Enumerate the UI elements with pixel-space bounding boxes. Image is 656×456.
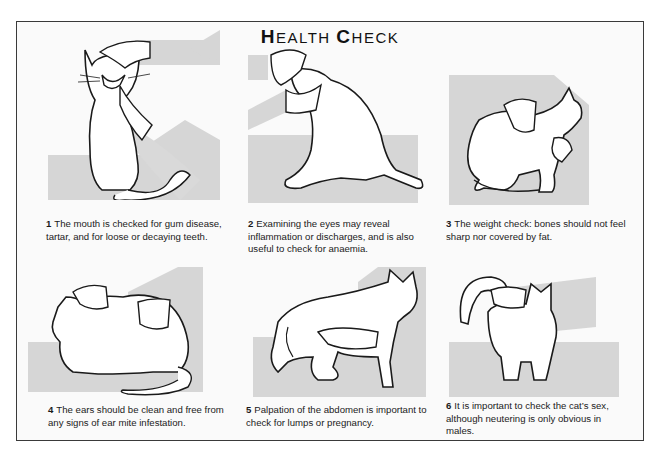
panel-6-caption: 6It is important to check the cat’s sex,… [446,400,621,438]
cat-weight-check-illustration [444,70,624,205]
panel-1-illustration [40,30,220,200]
cat-abdomen-check-illustration [248,262,448,397]
caption-text: The mouth is checked for gum disease, ta… [46,218,222,242]
panel-3-illustration [444,70,624,205]
panel-5-illustration [248,262,448,397]
panel-2-illustration [246,40,446,205]
panel-5-caption: 5Palpation of the abdomen is important t… [246,404,431,429]
panel-3-caption: 3The weight check: bones should not feel… [446,218,626,243]
panel-4-caption: 4The ears should be clean and free from … [48,404,228,429]
cat-mouth-check-illustration [40,30,220,200]
cat-sex-check-illustration [446,262,626,397]
panel-6-illustration [446,262,626,397]
cat-eye-check-illustration [246,40,446,205]
caption-text: Palpation of the abdomen is important to… [246,404,427,428]
caption-text: The weight check: bones should not feel … [446,218,626,242]
step-number: 2 [248,218,253,229]
caption-text: It is important to check the cat’s sex, … [446,400,609,436]
step-number: 6 [446,400,451,411]
step-number: 1 [46,218,51,229]
step-number: 5 [246,404,251,415]
cat-ear-check-illustration [28,262,228,397]
caption-text: Examining the eyes may reveal inflammati… [248,218,414,254]
panel-2-caption: 2Examining the eyes may reveal inflammat… [248,218,423,256]
panel-4-illustration [28,262,228,397]
caption-text: The ears should be clean and free from a… [48,404,224,428]
step-number: 3 [446,218,451,229]
step-number: 4 [48,404,53,415]
panel-1-caption: 1The mouth is checked for gum disease, t… [46,218,226,243]
